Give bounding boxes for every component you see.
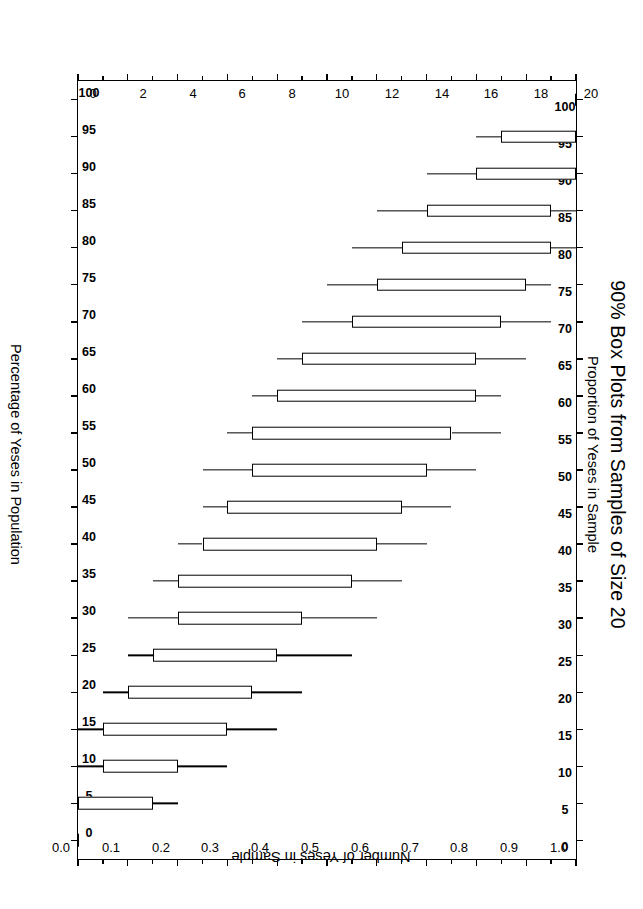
- rotated-figure: 90% Box Plots from Samples of Size 20 Pr…: [0, 0, 643, 909]
- box-plot-lower-whisker: [252, 395, 277, 396]
- box-plot-box: [103, 723, 228, 736]
- box-plot-upper-whisker: [277, 655, 352, 656]
- x-axis-tick: [71, 99, 78, 100]
- box-plot-upper-whisker: [302, 618, 377, 619]
- box-plot-upper-whisker: [526, 284, 551, 285]
- box-plot: [78, 526, 576, 563]
- box-plot-lower-whisker: [476, 136, 501, 137]
- box-plot: [78, 563, 576, 600]
- x-axis-tick: [71, 543, 78, 544]
- x-axis-tick: [71, 617, 78, 618]
- page-corner-mark: [3, 897, 6, 907]
- box-plot-lower-whisker: [227, 432, 252, 433]
- x-axis-tick: [71, 766, 78, 767]
- secondary-y-axis-minor-tick: [501, 859, 502, 864]
- box-plot-lower-whisker: [302, 321, 352, 322]
- box-plot-upper-whisker: [402, 506, 452, 507]
- box-plot-box: [178, 575, 352, 588]
- box-plot-box: [103, 760, 178, 773]
- x-axis-tick: [71, 580, 78, 581]
- box-plot-degenerate-mark: [575, 93, 577, 106]
- box-plot: [78, 748, 576, 785]
- box-plot-box: [277, 390, 476, 403]
- box-plot: [78, 785, 576, 822]
- box-plot-box: [402, 241, 551, 254]
- box-plot-lower-whisker: [352, 247, 402, 248]
- x-axis-tick: [71, 284, 78, 285]
- box-plot-box: [227, 501, 401, 514]
- x-axis-tick: [71, 506, 78, 507]
- box-plot: [78, 229, 576, 266]
- box-plot-upper-whisker: [452, 432, 502, 433]
- box-plot: [78, 266, 576, 303]
- box-plot: [78, 414, 576, 451]
- y-axis-tick: [426, 74, 427, 81]
- secondary-y-axis-minor-tick: [451, 859, 452, 864]
- box-plot-upper-whisker: [476, 395, 501, 396]
- box-plot-upper-whisker: [427, 469, 477, 470]
- plot-area: 0.00.10.20.30.40.50.60.70.80.91.00246810…: [77, 80, 577, 860]
- box-plot-lower-whisker: [128, 655, 153, 656]
- box-plot: [78, 451, 576, 488]
- box-plot: [78, 340, 576, 377]
- box-plot: [78, 600, 576, 637]
- y-axis-tick: [277, 74, 278, 81]
- box-plot-lower-whisker: [277, 358, 302, 359]
- x-axis-tick: [71, 136, 78, 137]
- y-axis-tick: [227, 74, 228, 81]
- x-axis-tick: [71, 321, 78, 322]
- box-plot-box: [427, 204, 552, 217]
- y-axis-tick: [526, 74, 527, 81]
- plot-inner: 0.00.10.20.30.40.50.60.70.80.91.00246810…: [78, 81, 576, 859]
- box-plot-lower-whisker: [128, 618, 178, 619]
- x-axis-title: Percentage of Yeses in Population: [8, 0, 24, 909]
- box-plot: [78, 303, 576, 340]
- box-plot-upper-whisker: [551, 210, 576, 211]
- box-plot: [78, 377, 576, 414]
- y-axis-tick: [127, 74, 128, 81]
- box-plot: [78, 637, 576, 674]
- box-plot: [78, 81, 576, 118]
- box-plot-box: [352, 316, 501, 329]
- box-plot: [78, 192, 576, 229]
- x-axis-tick: [71, 173, 78, 174]
- box-plot: [78, 674, 576, 711]
- secondary-y-axis-minor-tick: [152, 859, 153, 864]
- box-plot-lower-whisker: [203, 506, 228, 507]
- box-plot-lower-whisker: [103, 692, 128, 693]
- x-axis-tick: [71, 655, 78, 656]
- box-plot-box: [302, 353, 476, 366]
- box-plot: [78, 118, 576, 155]
- secondary-y-axis-tick: [77, 859, 78, 866]
- x-axis-tick: [71, 469, 78, 470]
- page-subtitle: Proportion of Yeses in Sample: [585, 0, 601, 909]
- box-plot-lower-whisker: [427, 173, 477, 174]
- box-plot-lower-whisker: [153, 580, 178, 581]
- box-plot-lower-whisker: [178, 543, 203, 544]
- box-plot-upper-whisker: [252, 692, 302, 693]
- x-axis-tick: [71, 803, 78, 804]
- box-plot-box: [78, 797, 153, 810]
- y-axis-tick: [376, 74, 377, 81]
- y-axis-tick: [326, 74, 327, 81]
- y-axis-tick: [575, 74, 576, 81]
- x-axis-tick: [71, 247, 78, 248]
- box-plot-lower-whisker: [78, 766, 103, 767]
- secondary-y-axis-minor-tick: [102, 859, 103, 864]
- box-plot-box: [252, 464, 426, 477]
- box-plot-upper-whisker: [153, 803, 178, 804]
- box-plot-upper-whisker: [551, 247, 576, 248]
- box-plot: [78, 155, 576, 192]
- box-plot-box: [501, 130, 576, 143]
- x-axis-tick: [71, 432, 78, 433]
- x-axis-tick: [71, 395, 78, 396]
- y-axis-tick: [77, 74, 78, 81]
- box-plot-box: [252, 427, 451, 440]
- box-plot-lower-whisker: [327, 284, 377, 285]
- box-plot-upper-whisker: [476, 358, 526, 359]
- box-plot-degenerate-mark: [77, 834, 79, 847]
- secondary-y-axis-tick: [476, 859, 477, 866]
- box-plot-upper-whisker: [352, 580, 402, 581]
- box-plot-lower-whisker: [203, 469, 253, 470]
- secondary-y-axis-tick: [177, 859, 178, 866]
